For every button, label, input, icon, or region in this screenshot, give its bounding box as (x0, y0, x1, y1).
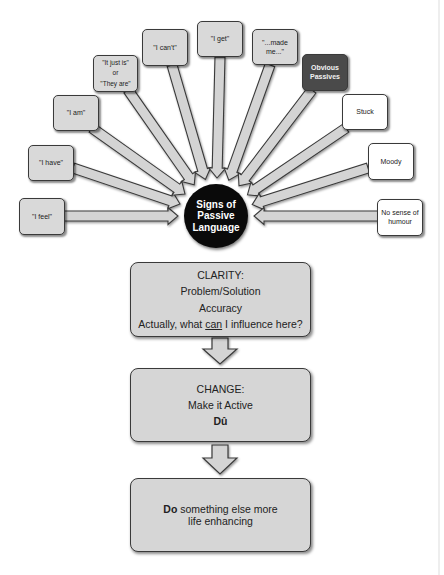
spoke-label: "I have" (39, 158, 63, 167)
change-line-make-it-active: Make it Active (188, 397, 253, 413)
spoke-label: "I can't" (153, 43, 176, 52)
spoke-label: "...made (262, 38, 288, 47)
change-line-du: Dû (214, 413, 228, 429)
hub-label: Passive (197, 210, 234, 222)
spoke-node-i-am: "I am" (53, 95, 99, 131)
spoke-label: Obvious (311, 64, 339, 72)
spoke-node-made-me: "...made me..." (252, 29, 298, 65)
clarity-line-problem-solution: Problem/Solution (181, 283, 261, 299)
do-text: Do something else more life enhancing (161, 503, 280, 527)
spoke-node-it-just-is: "It just is" or "They are" (93, 55, 138, 92)
clarity-title: CLARITY: (197, 267, 244, 283)
flow-arrow-clarity-to-change (203, 338, 237, 364)
spoke-node-moody: Moody (368, 143, 414, 180)
clarity-line-accuracy: Accuracy (199, 300, 242, 316)
spoke-label: "I am" (67, 108, 86, 117)
do-bold: Do (163, 503, 177, 515)
flow-arrow-change-to-do (203, 445, 237, 474)
page-edge-divider (438, 0, 440, 575)
spoke-label: "It just is" (102, 58, 129, 68)
step-clarity: CLARITY: Problem/Solution Accuracy Actua… (130, 262, 311, 337)
hub-signs-of-passive-language: Signs of Passive Language (184, 184, 248, 248)
spoke-arrow-i-feel (64, 208, 178, 225)
spoke-label: humour (388, 218, 412, 226)
spoke-node-obvious-passives: Obvious Passives (302, 54, 348, 91)
clarity-line-influence: Actually, what can I influence here? (138, 316, 302, 332)
spoke-label: No sense of (381, 209, 418, 217)
hub-label: Language (192, 222, 239, 234)
hub-label: Signs of (196, 199, 235, 211)
spoke-label: Stuck (356, 107, 374, 116)
spoke-node-stuck: Stuck (342, 94, 388, 130)
do-rest: something else more life enhancing (177, 503, 277, 527)
spoke-node-no-sense-of-humour: No sense of humour (377, 199, 423, 236)
step-do: Do something else more life enhancing (130, 478, 311, 552)
spoke-arrow-moody (252, 163, 369, 210)
emphasis-can: can (205, 318, 222, 330)
spoke-label: "They are" (100, 79, 130, 89)
spoke-label: Moody (380, 157, 401, 166)
spoke-node-i-get: "I get" (197, 21, 243, 57)
spoke-label: "I get" (211, 34, 230, 43)
spoke-arrow-no-sense-of-humour (254, 208, 378, 225)
spoke-arrow-i-get (209, 57, 226, 178)
spoke-node-i-cant: "I can't" (142, 29, 188, 66)
text-segment: I influence here? (222, 318, 303, 330)
change-title: CHANGE: (197, 381, 245, 397)
spoke-node-i-have: "I have" (28, 145, 74, 181)
spoke-arrow-i-have (71, 163, 180, 209)
spoke-label: me..." (266, 47, 284, 56)
step-change: CHANGE: Make it Active Dû (130, 368, 311, 442)
spoke-arrow-made-me (224, 63, 275, 180)
spoke-label: or (113, 68, 119, 78)
text-segment: Actually, what (138, 318, 205, 330)
spoke-label: "I feel" (32, 212, 52, 221)
spoke-node-i-feel: "I feel" (19, 198, 65, 235)
spoke-label: Passives (310, 73, 340, 81)
